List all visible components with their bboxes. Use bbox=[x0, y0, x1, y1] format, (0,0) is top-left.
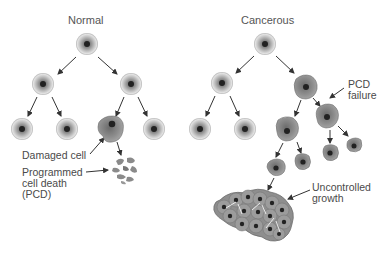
pcd-debris bbox=[112, 157, 137, 184]
cancer-root-cell bbox=[254, 33, 276, 55]
cancer-l4-cell-4 bbox=[347, 138, 362, 152]
cancer-l3-normal-cell-1 bbox=[189, 118, 211, 140]
cancer-l3-normal-cell-2 bbox=[234, 118, 256, 140]
cancer-l4-cell-1 bbox=[267, 159, 285, 176]
normal-tree bbox=[11, 33, 165, 184]
normal-cell-l3-1 bbox=[11, 118, 33, 140]
uncontrolled-label-line2: growth bbox=[312, 193, 344, 205]
cancer-l3-abnormal-cell-2 bbox=[316, 104, 338, 128]
normal-cell-l3-2 bbox=[56, 118, 78, 140]
normal-cell-l3-4 bbox=[143, 118, 165, 140]
normal-title: Normal bbox=[68, 15, 103, 27]
tumor-cluster bbox=[214, 189, 294, 241]
pcd-label-line3: (PCD) bbox=[22, 189, 51, 201]
normal-cell-l2-left bbox=[32, 73, 54, 95]
damaged-cell-label: Damaged cell bbox=[22, 150, 86, 162]
cancer-l4-cell-3 bbox=[323, 145, 339, 161]
cancer-l4-cell-2 bbox=[295, 154, 311, 170]
cancer-l2-normal-cell bbox=[211, 72, 233, 94]
normal-cell-root bbox=[76, 33, 98, 55]
cancer-l3-abnormal-cell-1 bbox=[276, 117, 298, 141]
normal-cell-l2-right bbox=[120, 73, 142, 95]
cell-division-diagram: Normal Cancerous Damaged cell Programmed… bbox=[0, 0, 388, 253]
cancerous-tree bbox=[189, 33, 362, 241]
cancerous-title: Cancerous bbox=[241, 15, 294, 27]
cancer-l2-abnormal-cell bbox=[294, 75, 317, 99]
pcd-failure-label-line2: failure bbox=[348, 90, 377, 102]
damaged-cell bbox=[98, 116, 123, 142]
diagram-canvas bbox=[0, 0, 388, 253]
